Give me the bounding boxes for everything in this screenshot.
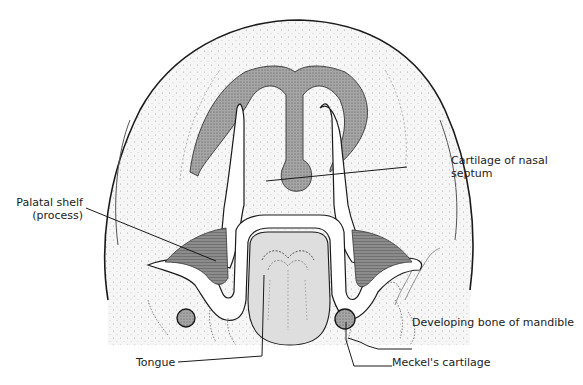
- label-palatal-shelf: Palatal shelf (process): [10, 196, 83, 222]
- label-nasal-septum-line1: Cartilage of nasal: [451, 154, 548, 167]
- label-meckels-cartilage: Meckel's cartilage: [392, 356, 491, 369]
- label-palatal-shelf-line2: (process): [10, 209, 83, 222]
- label-nasal-septum-line2: septum: [451, 167, 548, 180]
- label-nasal-septum: Cartilage of nasal septum: [451, 154, 548, 180]
- label-tongue: Tongue: [136, 356, 175, 369]
- label-palatal-shelf-line1: Palatal shelf: [10, 196, 83, 209]
- meckels-cartilage-left: [177, 309, 195, 327]
- label-developing-bone-mandible: Developing bone of mandible: [412, 316, 574, 329]
- tongue: [248, 232, 330, 345]
- meckels-cartilage-right: [335, 309, 355, 329]
